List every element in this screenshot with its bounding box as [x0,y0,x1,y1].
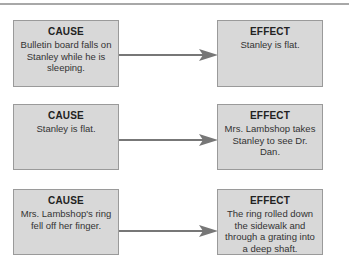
effect-box-3: EFFECT The ring rolled down the sidewalk… [217,189,323,255]
top-rule [0,3,349,5]
effect-title: EFFECT [218,194,322,207]
effect-title: EFFECT [218,109,322,122]
cause-box-2: CAUSE Stanley is flat. [13,104,119,170]
arrow-icon [119,224,218,238]
arrow-icon [119,133,218,147]
cause-text: Mrs. Lambshop's ring fell off her finger… [14,207,118,231]
cause-title: CAUSE [14,194,118,207]
arrow-icon [119,48,218,62]
effect-title: EFFECT [218,25,322,38]
effect-box-1: EFFECT Stanley is flat. [217,20,323,87]
cause-text: Stanley is flat. [14,122,118,135]
cause-title: CAUSE [14,109,118,122]
effect-text: Mrs. Lambshop takes Stanley to see Dr. D… [218,122,322,158]
cause-box-3: CAUSE Mrs. Lambshop's ring fell off her … [13,189,119,255]
cause-box-1: CAUSE Bulletin board falls on Stanley wh… [13,20,119,87]
cause-title: CAUSE [14,25,118,38]
effect-text: Stanley is flat. [218,38,322,51]
cause-text: Bulletin board falls on Stanley while he… [14,38,118,74]
effect-box-2: EFFECT Mrs. Lambshop takes Stanley to se… [217,104,323,170]
effect-text: The ring rolled down the sidewalk and th… [218,207,322,254]
